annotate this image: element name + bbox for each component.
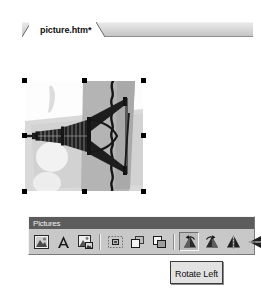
selection-handle-top-center[interactable] [82,78,87,83]
position-absolutely-button[interactable] [105,232,125,251]
send-backward-icon [152,235,167,249]
selection-handle-bottom-center[interactable] [82,189,87,194]
flip-horizontal-button[interactable] [223,232,243,251]
auto-thumbnail-button[interactable] [75,232,95,251]
bring-forward-icon [130,235,145,249]
document-tab-strip: picture.htm* [22,22,253,37]
selection-handle-bottom-right[interactable] [141,189,146,194]
picture-icon [34,235,49,249]
pictures-toolbar-titlebar[interactable]: Pictures [29,217,254,229]
rotate-right-icon [204,235,219,249]
pictures-toolbar-title: Pictures [33,219,60,228]
selection-handle-top-right[interactable] [141,78,146,83]
position-absolutely-icon [108,235,123,249]
toolbar-separator-2 [173,234,175,250]
rotate-right-button[interactable] [201,232,221,251]
bring-forward-button[interactable] [127,232,147,251]
flip-vertical-icon [248,235,262,249]
selection-handle-middle-left[interactable] [22,133,27,138]
tooltip: Rotate Left [170,261,223,284]
document-tab-picture-htm[interactable]: picture.htm* [29,22,96,37]
tab-right-edge-icon [96,22,105,37]
selection-handle-middle-right[interactable] [141,133,146,138]
text-button[interactable] [53,232,73,251]
tooltip-label: Rotate Left [175,269,218,279]
text-a-icon [56,235,71,249]
pictures-toolbar[interactable]: Pictures [28,216,255,255]
thumbnail-icon [78,235,93,249]
rotate-left-icon [182,235,197,249]
selection-handle-bottom-left[interactable] [22,189,27,194]
selection-handle-top-left[interactable] [22,78,27,83]
pictures-toolbar-button-row [29,229,254,254]
flip-vertical-button[interactable] [245,232,261,251]
eiffel-tower-image-rotated[interactable] [25,81,143,191]
document-tab-label: picture.htm* [40,25,91,35]
send-backward-button[interactable] [149,232,169,251]
flip-horizontal-icon [226,235,241,249]
rotate-left-button[interactable] [179,232,199,251]
picture-canvas[interactable] [25,81,143,191]
insert-picture-from-file-button[interactable] [31,232,51,251]
toolbar-separator-1 [99,234,101,250]
